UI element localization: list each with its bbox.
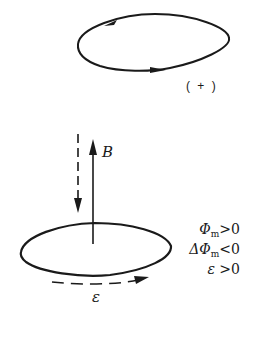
flux-symbol: Φ — [199, 221, 210, 237]
condition-flux-change-negative: ΔΦm<0 — [189, 241, 240, 262]
emf-label: ε — [92, 288, 100, 306]
field-label-b: B — [102, 143, 113, 161]
diagram-svg — [0, 0, 263, 347]
condition-emf-positive: ε >0 — [207, 261, 240, 277]
top-arrow-right-icon — [150, 67, 166, 73]
solid-arrowhead-up-icon — [89, 139, 97, 155]
field-arrows — [74, 134, 97, 244]
top-loop — [78, 14, 229, 73]
top-loop-sign-label: ( + ) — [186, 79, 218, 93]
bottom-loop — [21, 223, 171, 284]
diagram-canvas: ( + ) B ε Φm>0 ΔΦm<0 ε >0 — [0, 0, 263, 347]
emf-symbol: ε — [207, 261, 215, 277]
emf-dashed-arrow — [52, 280, 138, 284]
dashed-arrowhead-down-icon — [74, 198, 82, 213]
bottom-loop-ellipse — [21, 223, 171, 276]
emf-relation: >0 — [215, 261, 240, 277]
top-loop-ellipse — [78, 14, 229, 71]
condition-flux-positive: Φm>0 — [199, 221, 240, 242]
delta-flux-symbol: ΔΦ — [189, 241, 211, 257]
emf-arrowhead-icon — [134, 276, 149, 284]
delta-flux-relation: <0 — [219, 241, 240, 257]
flux-relation: >0 — [219, 221, 240, 237]
